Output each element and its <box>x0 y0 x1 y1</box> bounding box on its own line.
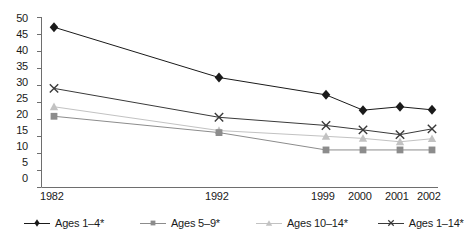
legend-label: Ages 5–9* <box>171 217 220 229</box>
data-point <box>397 147 404 154</box>
x-axis-label-1992: 1992 <box>205 190 229 202</box>
diamond-marker-icon <box>24 217 50 229</box>
data-point <box>428 125 436 133</box>
data-point <box>360 147 367 154</box>
legend-item-ages-1-14: Ages 1–14* <box>378 217 464 229</box>
data-point <box>50 103 58 111</box>
data-point <box>429 147 436 154</box>
square-marker-icon <box>140 217 166 229</box>
legend-item-ages-1-4: Ages 1–4* <box>24 217 104 229</box>
series-ages-1-4 <box>50 22 437 115</box>
legend-item-ages-5-9: Ages 5–9* <box>140 217 220 229</box>
series-ages-1-14 <box>50 84 436 139</box>
data-point <box>323 147 330 154</box>
legend-label: Ages 1–14* <box>409 217 464 229</box>
x-axis-label-2001: 2001 <box>385 190 409 202</box>
chart-legend: Ages 1–4* Ages 5–9* Ages 10–14* <box>0 208 439 238</box>
data-point <box>322 90 331 100</box>
legend-label: Ages 10–14* <box>287 217 348 229</box>
triangle-marker-icon <box>256 217 282 229</box>
data-point <box>359 105 368 115</box>
x-axis-label-1999: 1999 <box>311 190 335 202</box>
data-point <box>396 102 405 112</box>
data-point <box>50 22 59 32</box>
y-axis-ticks <box>37 18 42 188</box>
data-point <box>216 129 223 136</box>
series-layer <box>50 22 437 153</box>
data-point <box>215 73 224 83</box>
legend-item-ages-10-14: Ages 10–14* <box>256 217 348 229</box>
cross-marker-icon <box>378 217 404 229</box>
x-axis-label-2002: 2002 <box>417 190 441 202</box>
data-point <box>50 84 58 92</box>
plot-area <box>0 0 439 200</box>
x-axis-label-2000: 2000 <box>348 190 372 202</box>
data-point <box>51 113 58 120</box>
data-point <box>428 105 437 115</box>
legend-label: Ages 1–4* <box>55 217 104 229</box>
data-point <box>428 135 436 143</box>
x-axis-label-1982: 1982 <box>40 190 64 202</box>
